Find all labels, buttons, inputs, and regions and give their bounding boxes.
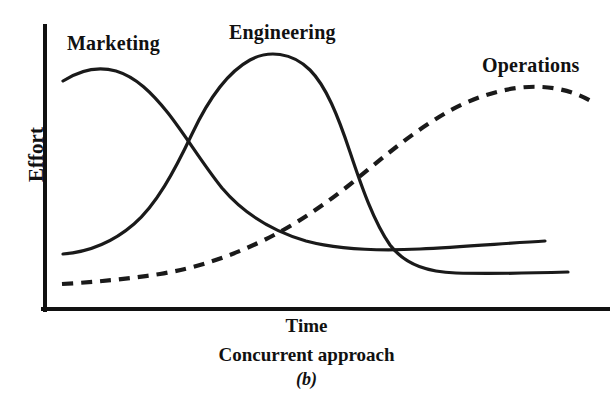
curve-label-marketing: Marketing xyxy=(67,32,160,55)
figure-caption: Concurrent approach xyxy=(0,344,613,366)
curve-operations xyxy=(62,87,596,284)
figure-number: (b) xyxy=(0,369,613,390)
curve-label-engineering: Engineering xyxy=(229,21,336,44)
curve-label-operations: Operations xyxy=(482,54,580,77)
curve-engineering xyxy=(63,54,568,273)
figure-concurrent-approach: Marketing Engineering Operations Effort … xyxy=(0,0,613,397)
y-axis-label: Effort xyxy=(24,110,49,200)
x-axis-label: Time xyxy=(0,315,613,337)
